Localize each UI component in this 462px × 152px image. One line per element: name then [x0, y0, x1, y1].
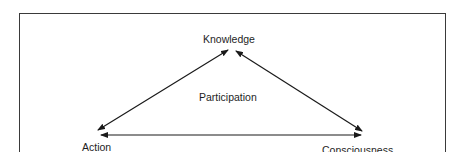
- node-knowledge: Knowledge: [203, 34, 255, 45]
- triangle-arrows: [0, 0, 462, 152]
- node-consciousness: Consciousness: [322, 145, 393, 152]
- node-action: Action: [82, 142, 111, 152]
- center-label-participation: Participation: [199, 92, 257, 103]
- edge-action-knowledge: [98, 50, 228, 130]
